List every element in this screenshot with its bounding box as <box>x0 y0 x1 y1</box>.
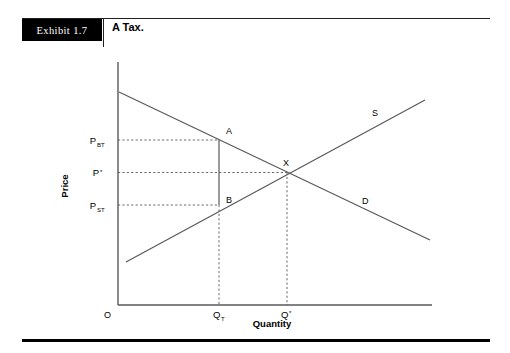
y-tick-price-bt: P BT <box>90 135 105 148</box>
x-tick-quantity-star-superscript: * <box>289 310 292 316</box>
y-tick-price-star: P * <box>93 167 103 178</box>
demand-curve-label: D <box>362 196 369 206</box>
x-tick-quantity-tax: Q T <box>213 309 225 322</box>
x-tick-quantity-star-base: Q <box>281 309 288 320</box>
demand-curve <box>119 92 430 240</box>
y-axis-tick-labels: P BT P * P ST <box>90 135 105 213</box>
annotation-point-a: A <box>226 126 232 136</box>
y-tick-price-bt-base: P <box>90 135 96 146</box>
supply-curve-label: S <box>372 108 378 118</box>
y-tick-price-st-subscript: ST <box>97 207 105 213</box>
origin-label: O <box>104 310 111 320</box>
y-axis-title: Price <box>59 174 70 197</box>
y-tick-price-st: P ST <box>90 200 105 213</box>
axes <box>118 62 432 305</box>
y-tick-price-st-base: P <box>90 200 96 211</box>
supply-demand-chart: Price Quantity P BT P * P ST <box>0 0 510 353</box>
y-tick-price-bt-subscript: BT <box>97 142 105 148</box>
guide-lines <box>118 140 287 305</box>
x-tick-quantity-tax-subscript: T <box>221 316 225 322</box>
supply-curve <box>126 100 425 262</box>
chart-canvas: Price Quantity P BT P * P ST <box>0 0 510 353</box>
y-tick-price-star-superscript: * <box>100 169 103 175</box>
y-tick-price-star-base: P <box>93 167 99 178</box>
x-tick-quantity-tax-base: Q <box>213 309 220 320</box>
annotation-point-x: X <box>283 158 289 168</box>
exhibit-figure: Exhibit 1.7 A Tax. <box>0 0 510 353</box>
annotation-point-b: B <box>226 195 232 205</box>
footer-divider <box>22 339 490 342</box>
